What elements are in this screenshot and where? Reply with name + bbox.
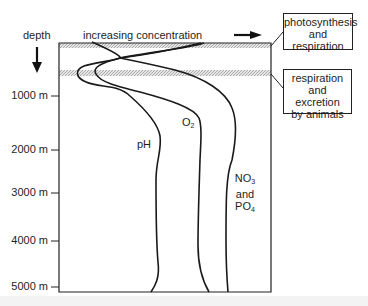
tick-label-5000: 5000 m — [0, 280, 48, 292]
tick-label-3000: 3000 m — [0, 186, 48, 198]
nutrient-label-line3: PO4 — [232, 200, 258, 216]
o2-label-sub: 2 — [191, 122, 195, 129]
tick-label-2000: 2000 m — [0, 143, 48, 155]
o2-label-main: O — [182, 116, 191, 128]
nutrient-curve — [120, 43, 235, 292]
plot-frame — [59, 43, 271, 292]
concentration-arrow-icon — [234, 31, 262, 39]
nutrient-curve-label: NO3 and PO4 — [232, 172, 258, 216]
lower-box-line-3: excretion — [284, 96, 351, 108]
upper-band-annotation-box: photosynthesis and respiration — [283, 13, 353, 50]
lower-box-line-4: by animals — [284, 108, 351, 120]
depth-axis-title: depth — [23, 29, 51, 41]
lower-band-shading — [59, 70, 271, 76]
upper-box-line-2: and — [284, 28, 352, 40]
ocean-depth-profile-diagram: depth increasing concentration 1000 m 20… — [0, 0, 368, 306]
o2-curve — [95, 43, 209, 292]
lower-box-line-2: and — [284, 84, 351, 96]
tick-label-4000: 4000 m — [0, 234, 48, 246]
tick-label-1000: 1000 m — [0, 89, 48, 101]
po4-sub: 4 — [251, 206, 255, 213]
lower-box-line-1: respiration — [284, 72, 351, 84]
nutrient-label-line2: and — [232, 188, 258, 200]
nutrient-label-line1: NO3 — [232, 172, 258, 188]
upper-band-shading — [59, 43, 271, 48]
ph-curve — [77, 42, 160, 292]
ph-curve-label: pH — [137, 138, 151, 150]
page-bottom-strip — [0, 296, 368, 306]
o2-curve-label: O2 — [182, 116, 194, 132]
concentration-axis-title: increasing concentration — [83, 29, 202, 41]
upper-band-leader — [271, 32, 283, 46]
upper-box-line-3: respiration — [284, 40, 352, 52]
lower-band-annotation-box: respiration and excretion by animals — [283, 69, 352, 114]
lower-band-leader — [271, 74, 283, 88]
depth-arrow-icon — [32, 47, 42, 73]
no3-main: NO — [235, 172, 252, 184]
depth-ticks — [51, 96, 59, 287]
no3-sub: 3 — [251, 178, 255, 185]
po4-main: PO — [235, 200, 251, 212]
upper-box-line-1: photosynthesis — [284, 16, 352, 28]
